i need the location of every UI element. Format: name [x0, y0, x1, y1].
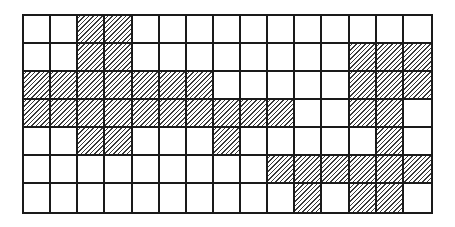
grid-cell-empty: [105, 156, 132, 184]
grid-cell-empty: [51, 16, 78, 44]
grid-cell-shaded: [350, 184, 377, 212]
grid-cell-shaded: [160, 100, 187, 128]
grid-cell-shaded: [78, 100, 105, 128]
grid-cell-shaded: [133, 100, 160, 128]
grid-cell-empty: [322, 128, 349, 156]
grid-cell-empty: [322, 184, 349, 212]
grid-cell-empty: [404, 184, 431, 212]
grid-cell-shaded: [377, 184, 404, 212]
grid-cell-shaded: [350, 100, 377, 128]
grid-cell-empty: [187, 156, 214, 184]
grid-cell-empty: [268, 128, 295, 156]
grid-cell-shaded: [78, 16, 105, 44]
grid-cell-empty: [24, 128, 51, 156]
grid-cell-empty: [295, 72, 322, 100]
grid-cell-empty: [133, 44, 160, 72]
grid-cell-empty: [350, 128, 377, 156]
grid-cell-shaded: [51, 100, 78, 128]
grid-cell-empty: [51, 156, 78, 184]
grid-cell-shaded: [350, 156, 377, 184]
grid-cell-shaded: [51, 72, 78, 100]
grid-cell-empty: [268, 72, 295, 100]
grid-cell-empty: [133, 156, 160, 184]
grid-cell-shaded: [377, 156, 404, 184]
grid-cell-empty: [404, 128, 431, 156]
grid-cell-empty: [241, 184, 268, 212]
grid-cell-shaded: [214, 128, 241, 156]
grid-cell-empty: [268, 184, 295, 212]
grid-cell-empty: [78, 184, 105, 212]
grid-cell-empty: [322, 100, 349, 128]
grid-cell-empty: [24, 156, 51, 184]
grid-cell-shaded: [105, 16, 132, 44]
grid-cell-empty: [295, 16, 322, 44]
grid-cell-empty: [24, 184, 51, 212]
grid-cell-empty: [214, 44, 241, 72]
grid-cell-shaded: [404, 72, 431, 100]
grid-cell-empty: [160, 184, 187, 212]
grid-cell-empty: [51, 128, 78, 156]
grid-cell-shaded: [78, 72, 105, 100]
grid-cell-empty: [214, 72, 241, 100]
grid-cell-empty: [322, 16, 349, 44]
grid-cell-shaded: [268, 100, 295, 128]
grid-cell-empty: [268, 16, 295, 44]
grid-cell-empty: [133, 128, 160, 156]
grid-cell-empty: [51, 184, 78, 212]
grid-cell-empty: [322, 72, 349, 100]
grid-cell-shaded: [105, 44, 132, 72]
grid-cell-empty: [350, 16, 377, 44]
grid-cell-empty: [160, 44, 187, 72]
grid-cell-empty: [295, 100, 322, 128]
grid-cell-empty: [187, 16, 214, 44]
diagram-canvas: [0, 0, 455, 227]
grid-cell-empty: [404, 100, 431, 128]
grid-cell-shaded: [105, 128, 132, 156]
grid-cell-shaded: [241, 100, 268, 128]
grid-cell-shaded: [322, 156, 349, 184]
grid-cell-shaded: [105, 100, 132, 128]
grid-cell-shaded: [133, 72, 160, 100]
grid-cell-empty: [214, 184, 241, 212]
grid-cell-shaded: [350, 44, 377, 72]
grid-cell-empty: [24, 44, 51, 72]
grid-cell-shaded: [78, 128, 105, 156]
grid-cell-empty: [105, 184, 132, 212]
grid-cell-empty: [78, 156, 105, 184]
grid-cell-empty: [214, 16, 241, 44]
grid-cell-empty: [187, 128, 214, 156]
grid-cell-empty: [133, 184, 160, 212]
grid-cell-empty: [241, 72, 268, 100]
grid-cell-shaded: [350, 72, 377, 100]
grid-cell-empty: [241, 44, 268, 72]
grid-cell-shaded: [295, 184, 322, 212]
grid-cell-empty: [187, 184, 214, 212]
grid-cell-shaded: [404, 156, 431, 184]
grid-cell-shaded: [187, 100, 214, 128]
grid-cell-empty: [377, 16, 404, 44]
grid-cell-empty: [241, 156, 268, 184]
grid-cell-empty: [295, 44, 322, 72]
grid-cell-empty: [51, 44, 78, 72]
grid-cell-shaded: [377, 44, 404, 72]
grid-cell-shaded: [214, 100, 241, 128]
grid-cell-empty: [160, 16, 187, 44]
grid-cell-shaded: [268, 156, 295, 184]
grid-cell-empty: [241, 16, 268, 44]
grid-cell-shaded: [187, 72, 214, 100]
grid-cell-shaded: [160, 72, 187, 100]
grid-cell-empty: [160, 128, 187, 156]
grid-cell-empty: [133, 16, 160, 44]
grid-cell-shaded: [377, 128, 404, 156]
grid-cell-empty: [295, 128, 322, 156]
grid-cell-empty: [187, 44, 214, 72]
grid-cell-empty: [24, 16, 51, 44]
grid-cell-empty: [268, 44, 295, 72]
grid-cell-shaded: [404, 44, 431, 72]
grid-cell-shaded: [78, 44, 105, 72]
grid-cell-empty: [404, 16, 431, 44]
grid-cell-shaded: [377, 100, 404, 128]
grid-cell-shaded: [24, 100, 51, 128]
grid-cell-empty: [160, 156, 187, 184]
hatched-grid: [22, 14, 433, 214]
